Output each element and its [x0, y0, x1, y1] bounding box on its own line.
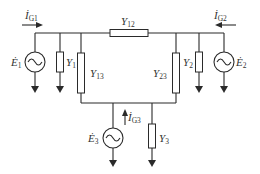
- e2-voltage-source: [214, 33, 234, 93]
- circuit-diagram: İG1 İG2 İG3 Ė1 Ė2 Ė3 Y1 Y13 Y12 Y23 Y2 Y…: [0, 0, 260, 174]
- y13-label: Y13: [90, 67, 104, 81]
- y12-label: Y12: [121, 15, 135, 29]
- ground-arrow-icon: [109, 160, 117, 167]
- ground-arrow-icon: [148, 160, 156, 167]
- e1-label: Ė1: [10, 56, 22, 70]
- ig2-label: İG2: [213, 9, 227, 23]
- y1-label: Y1: [66, 56, 76, 70]
- y23-label: Y23: [153, 67, 167, 81]
- e3-voltage-source: [103, 103, 123, 167]
- ground-arrow-icon: [220, 86, 228, 93]
- y12-admittance: [110, 30, 148, 37]
- ground-arrow-icon: [195, 86, 203, 93]
- y13-admittance: [78, 33, 85, 103]
- ground-arrow-icon: [31, 86, 39, 93]
- e1-voltage-source: [25, 33, 45, 93]
- e2-label: Ė2: [235, 56, 247, 70]
- ig3-label: İG3: [127, 111, 141, 125]
- y2-admittance: [195, 33, 203, 93]
- y3-admittance: [148, 103, 156, 167]
- y2-label: Y2: [183, 56, 193, 70]
- y1-admittance: [56, 33, 64, 93]
- ig1-label: İG1: [24, 9, 38, 23]
- ground-arrow-icon: [56, 86, 64, 93]
- y23-admittance: [173, 33, 180, 103]
- e3-label: Ė3: [87, 132, 99, 146]
- y3-label: Y3: [159, 132, 169, 146]
